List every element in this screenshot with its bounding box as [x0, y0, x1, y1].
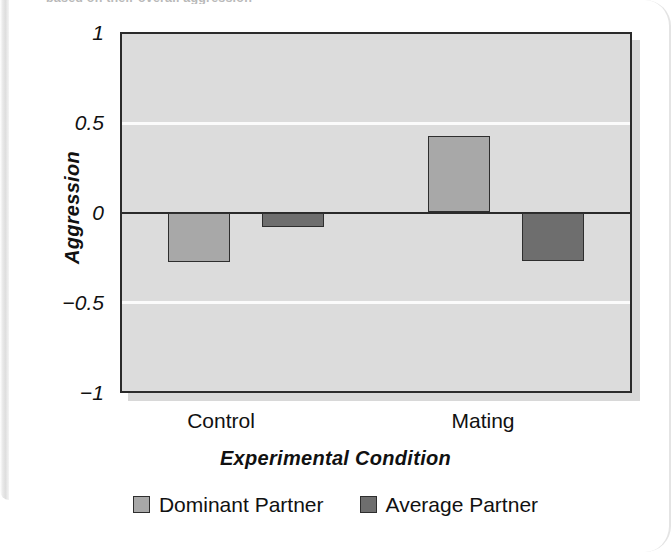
legend-swatch-dominant-partner	[133, 496, 150, 513]
chart-legend: Dominant Partner Average Partner	[0, 494, 671, 515]
bar-control-dominant	[168, 213, 230, 263]
x-tick-mating: Mating	[393, 409, 573, 433]
plot-area	[120, 32, 632, 393]
legend-item-average-partner: Average Partner	[360, 494, 539, 515]
y-tick-neg-1: −1	[42, 382, 104, 403]
scan-edge-artifact	[0, 0, 9, 500]
y-tick-neg-0-5: −0.5	[42, 292, 104, 313]
bar-control-average	[262, 213, 324, 227]
gridline-0-5	[122, 122, 630, 125]
bar-chart-figure: based on their overall aggression 1 0.5 …	[0, 0, 671, 552]
x-axis-title: Experimental Condition	[0, 447, 671, 470]
bar-mating-dominant	[428, 136, 490, 213]
y-axis-title: Aggression	[61, 128, 84, 288]
x-tick-control: Control	[131, 409, 311, 433]
legend-label-dominant-partner: Dominant Partner	[159, 494, 324, 515]
bar-mating-average	[522, 213, 584, 261]
gridline--0-5	[122, 301, 630, 304]
cropped-header-text: based on their overall aggression	[46, 0, 426, 4]
y-tick-1: 1	[42, 22, 104, 43]
legend-label-average-partner: Average Partner	[386, 494, 539, 515]
legend-swatch-average-partner	[360, 496, 377, 513]
legend-item-dominant-partner: Dominant Partner	[133, 494, 324, 515]
